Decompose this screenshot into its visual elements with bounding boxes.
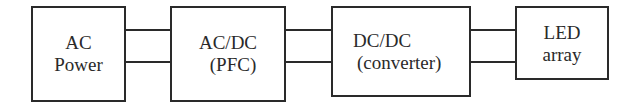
block-label-line2: Power [54,54,103,76]
connection-wire-top [471,29,515,31]
block-led-array: LED array [515,6,609,80]
block-label-line1: LED [544,22,581,44]
block-ac-power: AC Power [31,6,126,102]
block-label-line1: DC/DC [353,30,411,52]
block-label-line2: (PFC) [200,54,256,76]
block-ac-dc-pfc: AC/DC (PFC) [170,6,286,102]
connection-wire-top [286,29,331,31]
block-label-line1: AC [65,32,91,54]
connection-wire-bottom [286,61,331,63]
connection-wire-bottom [126,61,170,63]
connection-wire-bottom [471,61,515,63]
block-label-line1: AC/DC [199,32,257,54]
block-label-line2: (converter) [353,52,441,74]
block-dc-dc-converter: DC/DC (converter) [331,6,471,97]
connection-wire-top [126,29,170,31]
block-label-line2: array [542,44,581,66]
